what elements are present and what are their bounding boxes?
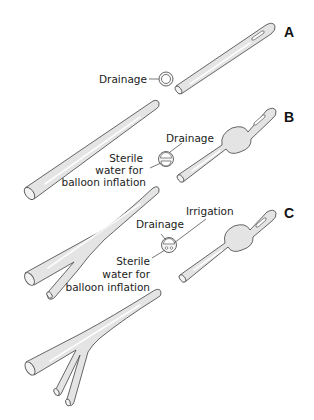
- catheter-b-tip: [176, 108, 276, 183]
- label-b-drainage: Drainage: [166, 132, 214, 144]
- panel-c: C Irrigation Drainage Sterile w: [23, 187, 295, 407]
- diagram-svg: A Drainage B: [0, 0, 314, 420]
- panel-label-b: B: [284, 109, 294, 125]
- label-b-sterile-3: balloon inflation: [61, 176, 146, 188]
- panel-label-a: A: [284, 24, 294, 40]
- catheter-diagram: A Drainage B: [0, 0, 314, 420]
- label-c-sterile-2: water for: [102, 268, 150, 280]
- label-b-sterile-2: water for: [95, 164, 143, 176]
- label-a-drainage: Drainage: [99, 73, 147, 85]
- label-b-sterile-1: Sterile: [109, 152, 143, 164]
- panel-label-c: C: [284, 205, 294, 221]
- cross-section-a: [149, 72, 173, 86]
- label-c-sterile-1: Sterile: [116, 255, 150, 267]
- label-c-irrigation: Irrigation: [186, 205, 234, 217]
- cross-section-b: [150, 143, 182, 168]
- panel-b: B Drainage Sterile water for balloon inf…: [22, 100, 294, 201]
- label-c-drainage: Drainage: [136, 218, 184, 230]
- panel-a: A Drainage: [99, 23, 294, 95]
- label-c-sterile-3: balloon inflation: [65, 281, 150, 293]
- catheter-c-tip: [178, 210, 276, 283]
- catheter-c-trident-connector: [23, 289, 161, 406]
- catheter-a-tip: [174, 23, 275, 95]
